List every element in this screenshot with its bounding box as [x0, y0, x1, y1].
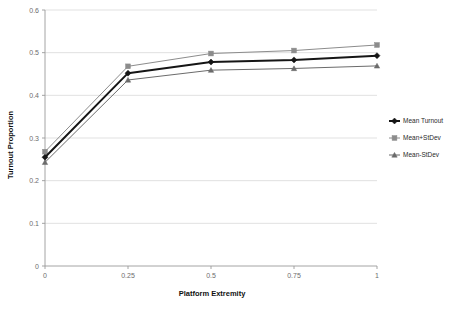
y-tick-label: 0.5: [29, 49, 39, 56]
legend-group: Mean TurnoutMean+StDevMean-StDev: [389, 117, 443, 158]
y-tick-labels-group: 00.10.20.30.40.50.6: [29, 7, 39, 270]
y-axis-title: Turnout Proportion: [6, 110, 15, 179]
x-tick-label: 0.5: [206, 272, 216, 279]
y-tick-label: 0.3: [29, 135, 39, 142]
x-axis-title: Platform Extremity: [179, 289, 247, 298]
y-tick-label: 0.2: [29, 177, 39, 184]
chart-container: 00.10.20.30.40.50.6 00.250.50.751 Mean T…: [0, 0, 464, 312]
data-point-marker: [208, 59, 214, 65]
series-line: [45, 66, 377, 162]
data-series-group: [42, 43, 380, 165]
data-point-marker: [209, 51, 214, 56]
data-point-marker: [292, 48, 297, 53]
axes-group: [42, 10, 377, 269]
legend-item-label: Mean-StDev: [403, 151, 440, 158]
data-point-marker: [374, 53, 380, 59]
data-point-marker: [126, 64, 131, 69]
gridlines-group: [45, 10, 377, 223]
data-point-marker: [375, 43, 380, 48]
x-tick-label: 0.25: [121, 272, 135, 279]
x-tick-label: 0.75: [287, 272, 301, 279]
legend-item-label: Mean+StDev: [403, 134, 442, 141]
y-tick-label: 0.6: [29, 7, 39, 14]
x-tick-labels-group: 00.250.50.751: [43, 272, 379, 279]
y-tick-label: 0.4: [29, 92, 39, 99]
data-point-marker: [392, 118, 398, 124]
data-point-marker: [392, 136, 397, 141]
y-tick-label: 0: [35, 263, 39, 270]
data-point-marker: [291, 57, 297, 63]
legend-item-label: Mean Turnout: [403, 117, 443, 124]
x-tick-label: 0: [43, 272, 47, 279]
data-point-marker: [43, 149, 48, 154]
y-tick-label: 0.1: [29, 220, 39, 227]
line-chart: 00.10.20.30.40.50.6 00.250.50.751 Mean T…: [0, 0, 464, 312]
x-tick-label: 1: [375, 272, 379, 279]
